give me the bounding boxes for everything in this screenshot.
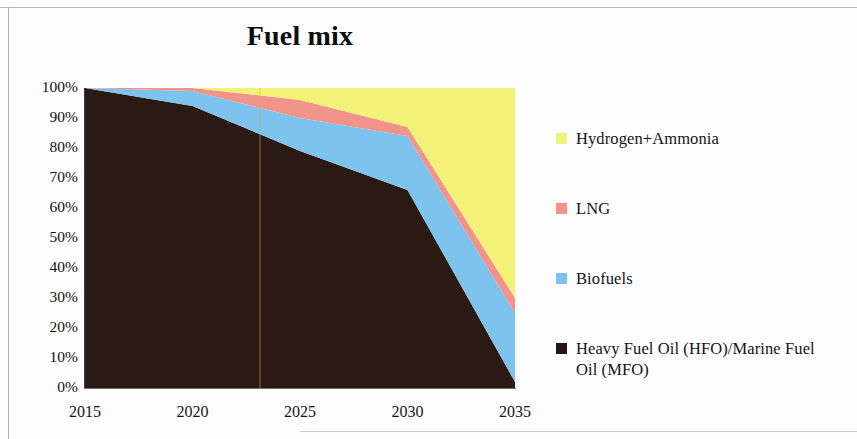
stacked-area-chart xyxy=(85,88,515,388)
legend-swatch-hydrogen-ammonia-icon xyxy=(556,133,567,144)
legend-item-biofuels[interactable]: Biofuels xyxy=(556,268,846,289)
chart-legend: Hydrogen+Ammonia LNG Biofuels Heavy Fuel… xyxy=(556,128,846,380)
y-axis-tick-label: 50% xyxy=(16,230,78,244)
y-axis-tick-label: 70% xyxy=(16,170,78,184)
chart-title: Fuel mix xyxy=(0,20,600,52)
legend-label-hfo-mfo: Heavy Fuel Oil (HFO)/Marine Fuel Oil (MF… xyxy=(576,338,826,380)
legend-item-hfo-mfo[interactable]: Heavy Fuel Oil (HFO)/Marine Fuel Oil (MF… xyxy=(556,338,846,380)
page-frame-top-rule xyxy=(0,7,857,8)
y-axis-tick-label: 90% xyxy=(16,110,78,124)
y-axis-tick-label: 0% xyxy=(16,380,78,394)
legend-swatch-lng-icon xyxy=(556,203,567,214)
legend-item-hydrogen-ammonia[interactable]: Hydrogen+Ammonia xyxy=(556,128,846,149)
y-axis-tick-label: 60% xyxy=(16,200,78,214)
x-axis-line xyxy=(84,388,516,389)
x-axis-tick-labels: 20152020202520302035 xyxy=(0,403,857,427)
y-axis-tick-label: 30% xyxy=(16,290,78,304)
legend-swatch-biofuels-icon xyxy=(556,273,567,284)
legend-swatch-hfo-mfo-icon xyxy=(556,343,567,354)
x-axis-tick-label: 2025 xyxy=(265,403,335,421)
legend-label-biofuels: Biofuels xyxy=(576,268,633,289)
y-axis-tick-label: 40% xyxy=(16,260,78,274)
y-axis-tick-label: 80% xyxy=(16,140,78,154)
x-axis-tick-label: 2015 xyxy=(50,403,120,421)
y-axis-tick-label: 100% xyxy=(16,80,78,94)
legend-label-lng: LNG xyxy=(576,198,610,219)
plot-area xyxy=(85,88,515,388)
x-axis-tick-label: 2030 xyxy=(373,403,443,421)
x-axis-tick-label: 2035 xyxy=(480,403,550,421)
legend-item-lng[interactable]: LNG xyxy=(556,198,846,219)
page-frame-bottom-rule xyxy=(300,431,857,432)
legend-label-hydrogen-ammonia: Hydrogen+Ammonia xyxy=(576,128,719,149)
y-axis-tick-labels: 100%90%80%70%60%50%40%30%20%10%0% xyxy=(8,0,78,439)
chart-page: Fuel mix 100%90%80%70%60%50%40%30%20%10%… xyxy=(0,0,857,439)
y-axis-tick-label: 20% xyxy=(16,320,78,334)
y-axis-tick-label: 10% xyxy=(16,350,78,364)
x-axis-tick-label: 2020 xyxy=(158,403,228,421)
